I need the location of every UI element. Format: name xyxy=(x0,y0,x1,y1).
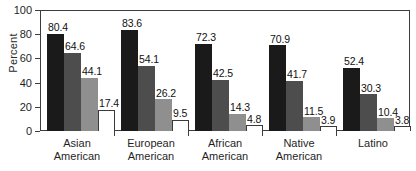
bar-value-label: 41.7 xyxy=(287,69,307,80)
bar: 52.4 xyxy=(343,68,360,131)
category-label-native-american: Native American xyxy=(262,137,336,163)
bar-value-label: 4.8 xyxy=(247,114,261,125)
bar-value-label: 42.5 xyxy=(213,68,233,79)
bar: 4.8 xyxy=(246,125,263,131)
bar-fill xyxy=(286,81,303,131)
bar: 10.4 xyxy=(377,118,394,131)
x-tick-mark-1 xyxy=(114,131,115,136)
bar: 26.2 xyxy=(155,99,172,131)
bar-fill xyxy=(320,126,337,131)
bar-value-label: 44.1 xyxy=(82,66,102,77)
bar-fill xyxy=(246,125,263,131)
category-label-asian-american: Asian American xyxy=(40,137,114,163)
bar: 17.4 xyxy=(98,110,115,131)
bar: 64.6 xyxy=(64,53,81,131)
bar: 54.1 xyxy=(138,66,155,131)
bar-value-label: 64.6 xyxy=(65,41,85,52)
bar-value-label: 72.3 xyxy=(196,32,216,43)
bar-value-label: 30.3 xyxy=(361,83,381,94)
bar-fill xyxy=(212,80,229,131)
bar: 3.8 xyxy=(394,126,411,131)
bar-fill xyxy=(303,117,320,131)
bar-value-label: 83.6 xyxy=(122,18,142,29)
bar-value-label: 26.2 xyxy=(156,88,176,99)
bar: 11.5 xyxy=(303,117,320,131)
bar: 44.1 xyxy=(81,78,98,131)
bar: 14.3 xyxy=(229,114,246,131)
bar-value-label: 70.9 xyxy=(270,34,290,45)
bar: 83.6 xyxy=(121,30,138,131)
category-label-european-american: European American xyxy=(114,137,188,163)
y-tick-label-0: 0 xyxy=(4,126,32,137)
y-tick-label-20: 20 xyxy=(4,102,32,113)
bar-fill xyxy=(343,68,360,131)
bar: 9.5 xyxy=(172,120,189,131)
bar: 70.9 xyxy=(269,45,286,131)
bar-value-label: 3.8 xyxy=(395,115,409,126)
category-label-african-american: African American xyxy=(188,137,262,163)
bar-fill xyxy=(138,66,155,131)
bar-fill xyxy=(269,45,286,131)
bar: 3.9 xyxy=(320,126,337,131)
bar-fill xyxy=(172,120,189,131)
bar-chart: Percent 100 80 60 40 20 0 80.464.644.117… xyxy=(0,0,416,171)
x-tick-mark-4 xyxy=(336,131,337,136)
bar: 30.3 xyxy=(360,94,377,131)
bar-fill xyxy=(394,126,411,131)
bar-fill xyxy=(121,30,138,131)
bar-value-label: 17.4 xyxy=(99,98,119,109)
bar-fill xyxy=(81,78,98,131)
bar-fill xyxy=(98,110,115,131)
y-tick-label-80: 80 xyxy=(4,29,32,40)
bar: 72.3 xyxy=(195,44,212,131)
y-tick-mark-0 xyxy=(35,131,40,132)
y-tick-label-40: 40 xyxy=(4,78,32,89)
x-tick-mark-3 xyxy=(262,131,263,136)
bar-fill xyxy=(377,118,394,131)
bar: 41.7 xyxy=(286,81,303,131)
category-label-latino: Latino xyxy=(336,137,410,150)
bar-fill xyxy=(155,99,172,131)
bar-fill xyxy=(64,53,81,131)
bar-fill xyxy=(229,114,246,131)
bar-fill xyxy=(195,44,212,131)
bar: 80.4 xyxy=(47,34,64,131)
y-tick-label-60: 60 xyxy=(4,53,32,64)
bar-value-label: 14.3 xyxy=(230,102,250,113)
bar-value-label: 9.5 xyxy=(173,108,187,119)
bar-value-label: 3.9 xyxy=(321,115,335,126)
bar-fill xyxy=(360,94,377,131)
bar-fill xyxy=(47,34,64,131)
bar-value-label: 80.4 xyxy=(48,22,68,33)
x-tick-mark-2 xyxy=(188,131,189,136)
y-tick-label-100: 100 xyxy=(4,5,32,16)
bar-value-label: 52.4 xyxy=(344,56,364,67)
bar: 42.5 xyxy=(212,80,229,131)
bar-value-label: 54.1 xyxy=(139,54,159,65)
